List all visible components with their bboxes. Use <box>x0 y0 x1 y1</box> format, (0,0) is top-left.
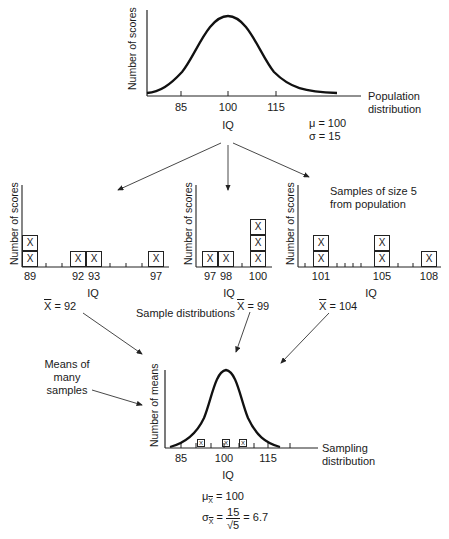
sampling-mean-box-104: X <box>239 439 247 447</box>
sample-3-tick-101: 101 <box>309 270 333 283</box>
sample-2-x-axis-label: IQ <box>219 287 239 300</box>
population-sigma: σ = 15 <box>309 130 341 143</box>
sample-1-tick-97: 97 <box>146 270 166 283</box>
samples-caption-line1: Samples of size 5 <box>330 185 417 198</box>
population-tick-100: 100 <box>216 101 240 114</box>
sample-1-y-axis-label: Number of scores <box>8 182 20 265</box>
sample-1-box-89-2: X <box>22 235 38 251</box>
sampling-tick-115: 115 <box>256 452 280 465</box>
sigma-fraction: 15 √5 <box>226 506 240 531</box>
sampling-tick-85: 85 <box>171 452 191 465</box>
sample-3-tick-105: 105 <box>370 270 394 283</box>
sample-3-box-105-1: X <box>374 251 390 267</box>
sample-1-tick-93: 93 <box>84 270 104 283</box>
sampling-sigma-xbar: σX = 15 √5 = 6.7 <box>202 503 268 536</box>
sample-1-x-axis-label: IQ <box>83 287 103 300</box>
sampling-mean-box-99: X <box>222 439 230 447</box>
population-to-sample-arrows <box>118 143 309 190</box>
sample-2-mean: X = 99 <box>237 300 269 313</box>
sample-2-box-100-3: X <box>250 219 266 235</box>
sample-3-tick-108: 108 <box>417 270 441 283</box>
sample-3-box-108: X <box>421 251 437 267</box>
population-caption-line1: Population <box>368 90 420 103</box>
sample-1-box-92: X <box>70 251 86 267</box>
sample-1-box-93: X <box>86 251 102 267</box>
sample-1-tick-89: 89 <box>20 270 40 283</box>
sample-2-box-98: X <box>218 251 234 267</box>
population-y-axis-label: Number of scores <box>126 7 138 90</box>
means-label-line1: Means of <box>38 358 96 371</box>
population-tick-85: 85 <box>171 101 191 114</box>
sample-distributions-label: Sample distributions <box>136 307 235 320</box>
population-caption-line2: distribution <box>368 103 421 116</box>
sample-3-box-105-2: X <box>374 235 390 251</box>
sampling-caption-line2: distribution <box>322 455 375 468</box>
sample-2-y-axis-label: Number of scores <box>182 182 194 265</box>
means-label-line3: samples <box>38 384 96 397</box>
sample-2-box-97: X <box>202 251 218 267</box>
sampling-x-axis-label: IQ <box>218 469 238 482</box>
sample-3-box-101-1: X <box>313 251 329 267</box>
population-chart <box>147 10 361 96</box>
sampling-y-axis-label: Number of means <box>148 364 160 447</box>
population-tick-115: 115 <box>264 101 288 114</box>
population-x-axis-label: IQ <box>218 119 238 132</box>
sample-1-box-89-1: X <box>22 251 38 267</box>
sample-1-box-97: X <box>148 251 164 267</box>
sampling-tick-100: 100 <box>212 452 236 465</box>
sampling-mean-box-92: X <box>197 439 205 447</box>
sampling-curve <box>170 370 280 447</box>
sample-3-y-axis-label: Number of scores <box>284 182 296 265</box>
population-mu: μ = 100 <box>309 117 346 130</box>
xbar-symbol: X <box>237 300 244 312</box>
samples-caption-line2: from population <box>330 198 406 211</box>
sample-1-mean: X = 92 <box>44 300 76 313</box>
sample-3-mean: X = 104 <box>319 300 357 313</box>
population-curve <box>147 16 337 93</box>
xbar-symbol: X <box>44 300 51 312</box>
sampling-caption-line1: Sampling <box>322 442 368 455</box>
means-label-line2: many <box>38 371 96 384</box>
sample-2-box-100-1: X <box>250 251 266 267</box>
sample-2-box-100-2: X <box>250 235 266 251</box>
sample-2-tick-100: 100 <box>246 270 270 283</box>
xbar-symbol: X <box>319 300 326 312</box>
sample-3-box-101-2: X <box>313 235 329 251</box>
sample-3-x-axis-label: IQ <box>361 287 381 300</box>
sample-2-tick-98: 98 <box>216 270 236 283</box>
means-to-sampling-arrows <box>83 312 329 405</box>
sampling-chart <box>165 370 318 448</box>
